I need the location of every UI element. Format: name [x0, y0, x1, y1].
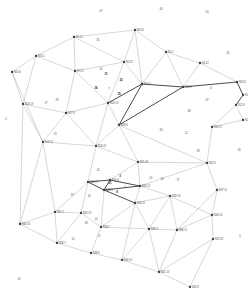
graph-edge: [207, 163, 217, 190]
graph-node[interactable]: N31:2: [54, 210, 64, 214]
graph-node[interactable]: N32:13: [80, 211, 92, 215]
node-dot: [87, 181, 89, 183]
face-label: 19: [70, 193, 74, 197]
graph-node[interactable]: N3:11: [35, 54, 45, 58]
graph-edge: [177, 190, 217, 230]
node-dot: [182, 86, 184, 88]
graph-node[interactable]: N20:22: [95, 144, 107, 148]
node-label: N40:10: [124, 258, 133, 262]
node-label: N30:14: [214, 213, 223, 217]
graph-node[interactable]: N36:11: [176, 228, 188, 232]
face-label: 13: [17, 277, 21, 281]
graph-edge: [122, 229, 149, 260]
node-dot: [216, 189, 218, 191]
node-label: N35:3: [151, 227, 158, 231]
graph-node[interactable]: N7:21: [74, 69, 84, 73]
graph-canvas: N0:20N1:12N2:4N3:11N4:22N5:22N6:16N7:21N…: [0, 0, 248, 307]
face-label: 21: [108, 181, 112, 185]
graph-edge: [138, 162, 140, 186]
node-dot: [148, 228, 150, 230]
graph-node[interactable]: N19:15: [42, 140, 54, 144]
node-label: N19:15: [45, 140, 54, 144]
node-label: N0:20: [137, 28, 144, 32]
graph-node[interactable]: N11:9: [182, 85, 192, 89]
graph-edge: [36, 56, 75, 71]
graph-node[interactable]: N37:22: [212, 237, 224, 241]
graph-node[interactable]: N1:12: [73, 35, 83, 39]
graph-node[interactable]: N30:14: [211, 213, 223, 217]
node-dot: [199, 62, 201, 64]
node-label: N39:9: [93, 251, 100, 255]
graph-edge: [177, 215, 212, 230]
face-label-layer: 4744504542243132367354370292723431248282…: [5, 7, 241, 281]
graph-edge: [170, 196, 212, 215]
node-label: N2:4: [168, 50, 174, 54]
node-label: N32:13: [83, 211, 92, 215]
node-label: N7:21: [77, 69, 84, 73]
node-dot: [65, 112, 67, 114]
graph-node[interactable]: N34:16: [19, 222, 31, 226]
face-label: 41: [149, 176, 153, 180]
node-dot: [90, 252, 92, 254]
face-label: 23: [53, 132, 57, 136]
node-label: N26:12: [142, 184, 151, 188]
face-label: 27: [44, 101, 48, 105]
graph-node[interactable]: N27:11: [216, 188, 228, 192]
graph-node[interactable]: N2:4: [165, 50, 174, 54]
graph-edge: [119, 125, 207, 163]
node-dot: [206, 162, 208, 164]
node-dot: [11, 71, 13, 73]
graph-node[interactable]: N38:7: [56, 241, 66, 245]
node-dot: [80, 212, 82, 214]
graph-node[interactable]: N21:20: [137, 160, 149, 164]
graph-edge: [12, 72, 23, 104]
graph-edge: [140, 163, 207, 186]
node-label: N21:20: [140, 160, 149, 164]
node-label: N14:19: [110, 101, 119, 105]
face-label: 45: [96, 38, 100, 42]
graph-edge: [170, 196, 177, 230]
graph-edge: [66, 71, 75, 113]
node-dot: [235, 104, 237, 106]
graph-edge: [119, 87, 183, 125]
graph-edge: [159, 230, 177, 272]
graph-node[interactable]: N26:12: [139, 184, 151, 188]
node-label: N13:13: [25, 102, 34, 106]
graph-node[interactable]: N16:17: [211, 125, 223, 129]
node-dot: [169, 195, 171, 197]
graph-node[interactable]: N9:10: [141, 82, 151, 86]
node-label: N20:22: [98, 144, 107, 148]
node-label: N16:17: [214, 125, 223, 129]
face-label: 36: [94, 86, 98, 90]
graph-svg: N0:20N1:12N2:4N3:11N4:22N5:22N6:16N7:21N…: [0, 0, 248, 307]
face-label: 15: [71, 237, 75, 241]
face-label: 7: [108, 87, 110, 91]
graph-edge: [20, 224, 57, 243]
graph-node[interactable]: N33:7: [100, 225, 110, 229]
graph-edge: [101, 190, 104, 227]
node-label: N9:10: [144, 82, 151, 86]
node-dot: [211, 126, 213, 128]
graph-edge: [88, 146, 96, 182]
node-label: N3:11: [38, 54, 45, 58]
node-dot: [123, 61, 125, 63]
graph-edge: [124, 30, 135, 62]
graph-node[interactable]: N28:18: [169, 194, 181, 198]
node-dot: [74, 70, 76, 72]
node-dot: [19, 223, 21, 225]
face-label: 37: [205, 98, 209, 102]
node-dot: [118, 124, 120, 126]
node-label: N4:22: [202, 61, 209, 65]
graph-node[interactable]: N23:17: [87, 180, 99, 184]
node-dot: [165, 51, 167, 53]
graph-edge: [74, 37, 75, 71]
node-dot: [35, 55, 37, 57]
graph-node[interactable]: N4:22: [199, 61, 209, 65]
node-label: N24:4: [112, 178, 119, 182]
graph-node[interactable]: N40:10: [121, 258, 133, 262]
graph-edge: [166, 52, 183, 87]
edge-layer: [12, 30, 243, 287]
node-label: N31:2: [57, 210, 64, 214]
graph-node[interactable]: N15:25: [242, 118, 248, 122]
node-dot: [242, 94, 244, 96]
